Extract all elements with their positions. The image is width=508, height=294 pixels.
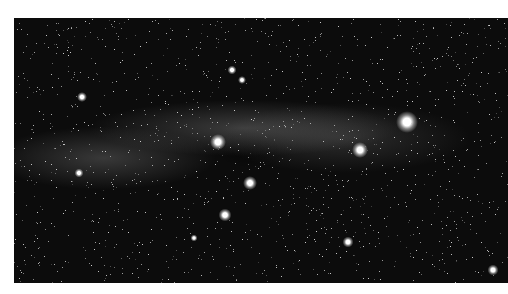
faint-star: [176, 65, 177, 66]
faint-star: [81, 49, 82, 50]
faint-star: [369, 261, 370, 262]
faint-star: [220, 77, 221, 78]
faint-star: [210, 118, 211, 119]
faint-star: [137, 268, 138, 269]
faint-star: [313, 42, 314, 43]
faint-star: [447, 273, 448, 274]
faint-star: [350, 78, 351, 79]
faint-star: [279, 126, 280, 127]
faint-star: [199, 91, 200, 92]
faint-star: [228, 123, 229, 124]
faint-star: [68, 55, 69, 56]
faint-star: [161, 229, 162, 230]
faint-star: [313, 208, 314, 209]
faint-star: [374, 279, 375, 280]
faint-star: [179, 63, 180, 64]
faint-star: [477, 194, 478, 195]
faint-star: [114, 49, 115, 50]
faint-star: [351, 23, 352, 24]
faint-star: [122, 229, 123, 230]
faint-star: [134, 243, 135, 244]
faint-star: [212, 122, 213, 123]
faint-star: [76, 96, 77, 97]
faint-star: [288, 212, 289, 213]
faint-star: [113, 179, 114, 180]
faint-star: [162, 279, 163, 280]
faint-star: [283, 238, 284, 239]
faint-star: [408, 222, 409, 223]
faint-star: [459, 68, 460, 69]
faint-star: [432, 135, 433, 136]
faint-star: [191, 247, 192, 248]
faint-star: [73, 77, 74, 78]
faint-star: [264, 78, 265, 79]
faint-star: [118, 203, 119, 204]
faint-star: [141, 125, 142, 126]
faint-star: [434, 147, 435, 148]
faint-star: [343, 210, 344, 211]
faint-star: [68, 262, 69, 263]
faint-star: [441, 221, 442, 222]
faint-star: [387, 89, 388, 90]
faint-star: [77, 80, 78, 81]
faint-star: [198, 55, 199, 56]
faint-star: [287, 147, 288, 148]
faint-star: [280, 205, 281, 206]
faint-star: [338, 190, 339, 191]
faint-star: [250, 153, 251, 154]
faint-star: [111, 182, 112, 183]
faint-star: [51, 114, 52, 115]
faint-star: [114, 21, 115, 22]
faint-star: [353, 200, 354, 201]
faint-star: [63, 30, 64, 31]
faint-star: [126, 38, 127, 39]
faint-star: [235, 62, 236, 63]
faint-star: [283, 93, 284, 94]
faint-star: [269, 185, 270, 186]
faint-star: [67, 29, 68, 30]
faint-star: [447, 217, 448, 218]
faint-star: [300, 274, 301, 275]
faint-star: [158, 23, 159, 24]
faint-star: [158, 39, 159, 40]
faint-star: [415, 21, 416, 22]
faint-star: [282, 235, 283, 236]
faint-star: [191, 269, 192, 270]
faint-star: [315, 241, 316, 242]
faint-star: [147, 271, 148, 272]
faint-star: [217, 21, 218, 22]
faint-star: [473, 94, 474, 95]
faint-star: [357, 45, 358, 46]
faint-star: [310, 65, 311, 66]
faint-star: [337, 220, 338, 221]
faint-star: [34, 184, 35, 185]
faint-star: [93, 221, 94, 222]
faint-star: [20, 123, 21, 124]
faint-star: [331, 198, 332, 199]
faint-star: [315, 91, 316, 92]
faint-star: [150, 242, 151, 243]
faint-star: [290, 60, 291, 61]
faint-star: [406, 90, 407, 91]
faint-star: [499, 107, 500, 108]
faint-star: [380, 148, 381, 149]
faint-star: [167, 48, 168, 49]
faint-star: [358, 264, 359, 265]
faint-star: [496, 113, 497, 114]
faint-star: [45, 229, 46, 230]
faint-star: [351, 197, 352, 198]
faint-star: [364, 203, 365, 204]
bright-star: [75, 169, 84, 178]
faint-star: [429, 112, 430, 113]
faint-star: [310, 123, 311, 124]
faint-star: [376, 124, 377, 125]
faint-star: [241, 98, 242, 99]
faint-star: [256, 273, 257, 274]
faint-star: [23, 273, 24, 274]
faint-star: [172, 259, 173, 260]
faint-star: [304, 163, 305, 164]
faint-star: [323, 197, 324, 198]
faint-star: [50, 123, 51, 124]
faint-star: [79, 96, 80, 97]
faint-star: [453, 60, 454, 61]
